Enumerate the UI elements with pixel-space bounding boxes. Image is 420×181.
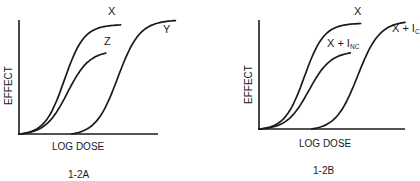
y-axis-label: EFFECT xyxy=(243,65,254,104)
curves: XX + INCX + IC xyxy=(260,5,420,129)
panel-caption: 1-2B xyxy=(313,165,334,176)
curve-z xyxy=(20,53,106,134)
curve-label: Z xyxy=(104,35,111,47)
x-axis-label: LOG DOSE xyxy=(299,138,352,149)
figure: XZY LOG DOSE EFFECT 1-2A XX + INCX + IC … xyxy=(0,0,420,181)
curve-label: X + IC xyxy=(392,22,420,35)
curve-label: X xyxy=(354,5,362,17)
curves: XZY xyxy=(20,5,175,134)
curve-label: X xyxy=(108,5,116,17)
panel-1-2b: XX + INCX + IC LOG DOSE EFFECT 1-2B xyxy=(243,5,420,176)
panel-caption: 1-2A xyxy=(68,169,89,180)
panel-1-2a: XZY LOG DOSE EFFECT 1-2A xyxy=(3,5,175,180)
y-axis-label: EFFECT xyxy=(3,66,14,105)
curve-label-subscript: C xyxy=(415,28,420,35)
curve-label: X + INC xyxy=(327,37,360,50)
curve-label: Y xyxy=(163,23,171,35)
curve-label-subscript: NC xyxy=(350,43,360,50)
curve-y xyxy=(72,21,176,134)
x-axis-label: LOG DOSE xyxy=(52,141,105,152)
curve-x-i-c xyxy=(312,22,405,129)
